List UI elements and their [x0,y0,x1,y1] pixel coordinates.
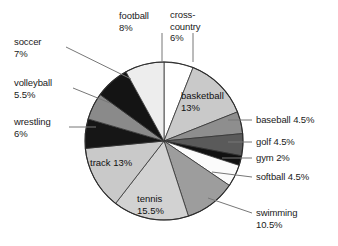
pie-chart: basketball13%tennis15.5%track 13% footba… [0,0,338,246]
label-volleyball: volleyball 5.5% [14,77,52,100]
label-cross-country: cross- country 6% [170,9,200,44]
label-gym: gym 2% [256,152,290,164]
label-golf: golf 4.5% [256,136,295,148]
label-football: football 8% [119,10,149,33]
label-softball: softball 4.5% [256,171,309,183]
label-wrestling: wrestling 6% [14,116,51,139]
leader-line-swimming [208,198,252,213]
label-swimming: swimming 10.5% [256,207,297,230]
pie-slices-group [85,62,243,220]
slice-label-track: track 13% [90,157,133,168]
slice-label-tennis: tennis15.5% [137,193,164,216]
leader-line-soccer [66,47,131,79]
label-baseball: baseball 4.5% [256,114,314,126]
label-soccer: soccer 7% [14,36,41,59]
